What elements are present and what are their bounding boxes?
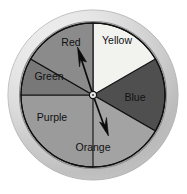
sector-label-yellow: Yellow [102, 34, 132, 46]
sector-label-green: Green [34, 70, 63, 82]
sector-purple[interactable] [21, 95, 93, 167]
sector-label-orange: Orange [75, 141, 110, 153]
sector-label-purple: Purple [37, 111, 68, 123]
spinner-wheel-figure: Yellow Blue Orange Purple Green Red [0, 0, 187, 194]
sector-label-blue: Blue [124, 91, 145, 103]
wheel-hub-pin [92, 94, 94, 96]
spinner-wheel-svg: Yellow Blue Orange Purple Green Red [0, 0, 187, 194]
sector-label-red: Red [61, 36, 80, 48]
